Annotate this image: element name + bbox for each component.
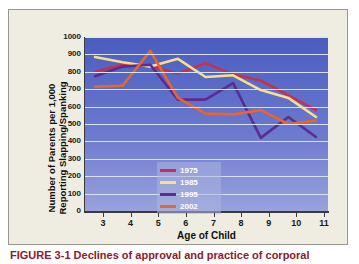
- x-tick-label: 11: [314, 218, 334, 228]
- x-tick-label: 4: [121, 218, 141, 228]
- legend-swatch-2002: [160, 205, 176, 208]
- y-tick-label: 200: [49, 172, 81, 180]
- x-tick-label: 9: [259, 218, 279, 228]
- x-tick-label: 7: [204, 218, 224, 228]
- x-tick-label: 6: [176, 218, 196, 228]
- legend-item-2002: 2002: [160, 200, 218, 212]
- figure-panel: Number of Parents per 1,000 Reporting Sl…: [8, 9, 348, 245]
- figure-caption: FIGURE 3-1 Declines of approval and prac…: [10, 249, 355, 264]
- plot-area: 1975198519952002: [85, 37, 328, 211]
- y-tick-label: 1000: [49, 33, 81, 41]
- y-tick-label: 700: [49, 85, 81, 93]
- x-tick-mark: [131, 213, 132, 217]
- x-tick-mark: [324, 213, 325, 217]
- x-tick-mark: [103, 213, 104, 217]
- legend-label-1995: 1995: [180, 190, 198, 199]
- legend-swatch-1975: [160, 169, 176, 172]
- x-tick-mark: [214, 213, 215, 217]
- y-tick-label: 500: [49, 120, 81, 128]
- legend-label-1985: 1985: [180, 178, 198, 187]
- legend-label-2002: 2002: [180, 202, 198, 211]
- x-tick-label: 8: [231, 218, 251, 228]
- gridline: [85, 72, 328, 73]
- x-axis-title: Age of Child: [85, 230, 328, 241]
- x-tick-mark: [186, 213, 187, 217]
- legend-item-1995: 1995: [160, 188, 218, 200]
- gridline: [85, 124, 328, 125]
- y-tick-label: 800: [49, 68, 81, 76]
- y-tick-label: 400: [49, 137, 81, 145]
- y-tick-label: 600: [49, 103, 81, 111]
- legend-item-1975: 1975: [160, 164, 218, 176]
- x-tick-mark: [269, 213, 270, 217]
- y-tick-label: 100: [49, 190, 81, 198]
- x-tick-label: 10: [286, 218, 306, 228]
- x-tick-mark: [158, 213, 159, 217]
- figure-page: Number of Parents per 1,000 Reporting Sl…: [0, 0, 359, 264]
- legend-swatch-1995: [160, 193, 176, 196]
- x-tick-mark: [296, 213, 297, 217]
- x-tick-label: 5: [148, 218, 168, 228]
- y-tick-label: 300: [49, 155, 81, 163]
- y-tick-label: 900: [49, 50, 81, 58]
- x-tick-mark: [241, 213, 242, 217]
- legend-swatch-1985: [160, 181, 176, 184]
- x-tick-label: 3: [93, 218, 113, 228]
- legend-item-1985: 1985: [160, 176, 218, 188]
- series-line-1975: [95, 63, 316, 110]
- gridline: [85, 107, 328, 108]
- gridline: [85, 54, 328, 55]
- legend-label-1975: 1975: [180, 166, 198, 175]
- gridline: [85, 37, 328, 38]
- gridline: [85, 159, 328, 160]
- legend: 1975198519952002: [157, 162, 221, 214]
- gridline: [85, 141, 328, 142]
- gridline: [85, 89, 328, 90]
